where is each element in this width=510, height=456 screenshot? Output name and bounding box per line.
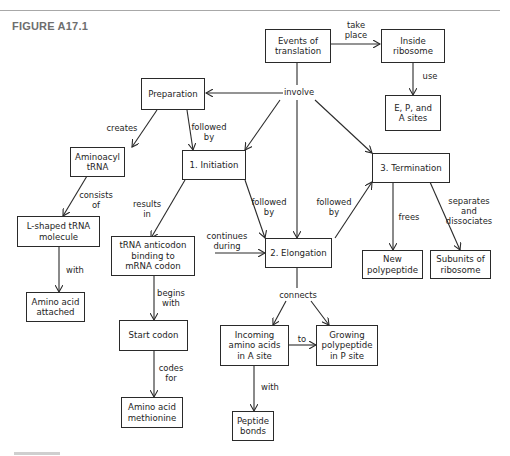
label-frees: frees: [396, 212, 422, 222]
label-followed-by-elong: followed by: [315, 197, 353, 217]
label-to: to: [294, 334, 310, 344]
node-preparation: Preparation: [141, 78, 205, 110]
node-termination: 3. Termination: [372, 153, 450, 183]
node-peptide-bonds: Peptide bonds: [232, 411, 274, 441]
label-codes-for: codes for: [157, 363, 185, 383]
node-events-of-translation: Events of translation: [265, 29, 331, 63]
label-connects: connects: [278, 290, 318, 300]
node-new-polypeptide: New polypeptide: [362, 250, 423, 279]
node-l-shaped-trna: L-shaped tRNA molecule: [17, 216, 100, 247]
node-elongation: 2. Elongation: [265, 238, 332, 268]
node-aminoacyl-trna: Aminoacyl tRNA: [70, 147, 125, 177]
node-start-codon: Start codon: [119, 320, 188, 351]
label-creates: creates: [105, 123, 139, 133]
node-trna-anticodon: tRNA anticodon binding to mRNA codon: [111, 236, 195, 276]
label-take-place: take place: [341, 20, 371, 40]
label-involve: involve: [283, 87, 315, 97]
node-initiation: 1. Initiation: [182, 150, 246, 180]
label-use: use: [418, 71, 442, 81]
label-with-peptide: with: [258, 382, 282, 392]
label-consists-of: consists of: [78, 190, 114, 210]
node-amino-acid-methionine: Amino acid methionine: [121, 397, 183, 428]
label-begins-with: begins with: [156, 288, 186, 308]
footer-mark: [14, 452, 60, 455]
node-growing-polypeptide: Growing polypeptide in P site: [316, 325, 378, 366]
label-with-amino: with: [63, 265, 87, 275]
label-separates-dissociates: separates and dissociates: [442, 196, 496, 226]
node-amino-acid-attached: Amino acid attached: [26, 292, 85, 322]
node-incoming-amino-acids: Incoming amino acids in A site: [220, 325, 289, 366]
label-followed-by-prep: followed by: [190, 122, 228, 142]
node-subunits-of-ribosome: Subunits of ribosome: [430, 250, 491, 279]
label-continues-during: continues during: [205, 231, 249, 251]
label-followed-by-init: followed by: [250, 197, 288, 217]
node-inside-ribosome: Inside ribosome: [381, 29, 445, 63]
node-epa-sites: E, P, and A sites: [385, 95, 441, 131]
label-results-in: results in: [132, 199, 162, 219]
